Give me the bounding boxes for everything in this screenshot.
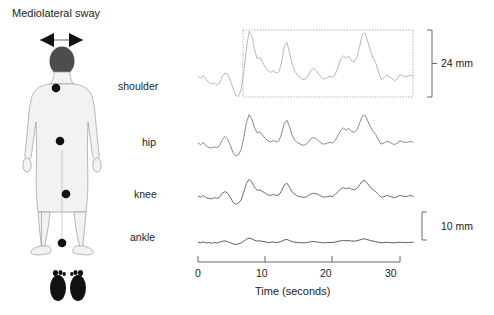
x-axis-title: Time (seconds): [255, 286, 330, 297]
marker-ankle: [58, 239, 67, 248]
footprints-pair-icon: [50, 270, 86, 301]
shoulder-range-box: [243, 30, 413, 97]
x-tick-label-20: 20: [320, 268, 332, 279]
range-label-24mm: 24 mm: [441, 58, 473, 69]
scale-bar-10mm: [422, 212, 427, 240]
trace-ankle: [198, 238, 413, 244]
left-hand-shape: [23, 158, 31, 172]
neck-shape: [50, 72, 74, 84]
range-bracket-24mm: [427, 30, 437, 97]
trace-shoulder: [198, 31, 413, 96]
right-hand-shape: [93, 158, 101, 172]
trace-label-knee: knee: [134, 189, 157, 200]
marker-shoulder: [52, 84, 61, 93]
left-leg-shape: [38, 212, 50, 248]
figure-title: Mediolateral sway: [12, 8, 100, 19]
left-foot-shape: [31, 246, 51, 255]
mediolateral-sway-figure: [0, 0, 494, 315]
right-leg-shape: [74, 212, 86, 248]
trace-label-ankle: ankle: [130, 232, 155, 243]
x-tick-label-10: 10: [256, 268, 268, 279]
head-shape: [50, 47, 75, 76]
x-tick-label-0: 0: [195, 268, 201, 279]
body-diagram-group: [23, 33, 101, 301]
double-headed-horizontal-arrow-icon: [40, 33, 83, 47]
right-foot-shape: [73, 246, 93, 255]
trace-knee: [198, 179, 413, 204]
x-tick-label-30: 30: [385, 268, 397, 279]
marker-knee: [62, 190, 71, 199]
trace-hip: [198, 115, 413, 156]
x-axis: [198, 256, 400, 262]
marker-hip: [56, 137, 65, 146]
traces-plot-area: [198, 30, 437, 262]
trace-label-hip: hip: [142, 137, 156, 148]
scale-label-10mm: 10 mm: [441, 221, 473, 232]
trace-label-shoulder: shoulder: [118, 81, 158, 92]
